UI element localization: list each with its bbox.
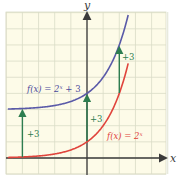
blue-curve-label: f(x) = 2x + 3 (26, 84, 81, 95)
y-axis-label: y (83, 0, 91, 12)
x-axis-label: x (170, 152, 177, 165)
exponential-translation-chart: x y +3 +3 +3 f(x) = 2x + 3 f(x) = 2x (0, 0, 183, 187)
red-curve-label: f(x) = 2x (106, 131, 144, 142)
arrow-label-right: +3 (122, 52, 135, 62)
arrow-label-left: +3 (27, 129, 40, 139)
arrow-label-middle: +3 (90, 114, 103, 124)
